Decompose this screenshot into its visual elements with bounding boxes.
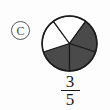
fraction-value: 3 5 bbox=[55, 74, 85, 107]
fraction-numerator: 3 bbox=[55, 74, 85, 89]
fraction-denominator: 5 bbox=[55, 92, 85, 107]
item-letter-label: C bbox=[16, 25, 24, 37]
fraction-pie-chart bbox=[41, 15, 98, 72]
item-letter-badge: C bbox=[11, 21, 30, 40]
worksheet-item: C 3 5 bbox=[0, 0, 110, 110]
pie-svg bbox=[41, 15, 98, 72]
